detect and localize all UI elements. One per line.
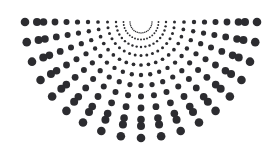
pattern-dot	[124, 27, 126, 29]
pattern-dot	[226, 92, 235, 101]
pattern-dot	[115, 21, 117, 23]
pattern-dot	[161, 33, 163, 35]
pattern-dot	[128, 52, 131, 55]
pattern-dot	[33, 18, 41, 26]
pattern-dot	[129, 34, 131, 36]
pattern-dot	[52, 19, 59, 26]
pattern-dot	[160, 79, 165, 84]
pattern-dot	[135, 31, 137, 32]
pattern-dot	[57, 85, 65, 93]
pattern-dot	[157, 70, 161, 74]
pattern-dot	[179, 54, 183, 58]
pattern-dot	[95, 93, 102, 100]
pattern-dot	[187, 60, 192, 65]
pattern-dot	[211, 107, 220, 116]
pattern-dot	[148, 44, 150, 46]
pattern-dot	[113, 89, 119, 95]
pattern-dot	[81, 67, 87, 73]
pattern-dot	[176, 42, 180, 46]
pattern-dot	[151, 34, 153, 36]
pattern-dot	[35, 36, 43, 44]
pattern-dot	[130, 72, 134, 76]
pattern-dot	[101, 84, 107, 90]
pattern-dot	[203, 56, 209, 62]
pattern-dot	[79, 118, 88, 127]
pattern-dot	[239, 36, 247, 44]
pattern-dot	[64, 19, 70, 25]
pattern-dot	[73, 56, 79, 62]
pattern-dot	[124, 40, 126, 42]
pattern-dot	[217, 85, 225, 93]
pattern-dot	[121, 37, 123, 39]
pattern-dot	[133, 30, 135, 32]
pattern-dot	[156, 50, 159, 53]
pattern-dot	[169, 37, 172, 40]
pattern-dot	[101, 116, 109, 124]
pattern-dot	[98, 54, 102, 58]
pattern-dot	[22, 38, 31, 47]
pattern-dot	[155, 120, 163, 128]
pattern-dot	[211, 32, 217, 38]
pattern-dot	[136, 32, 138, 34]
pattern-dot	[125, 30, 127, 32]
pattern-dot	[235, 54, 243, 62]
pattern-dot	[227, 70, 235, 78]
pattern-dot	[224, 19, 231, 26]
pattern-dot	[167, 99, 174, 106]
pattern-dot	[138, 32, 140, 34]
pattern-dot	[146, 37, 148, 39]
pattern-dot	[198, 41, 203, 46]
pattern-dot	[97, 127, 106, 136]
pattern-dot	[110, 37, 113, 40]
pattern-dot	[189, 38, 193, 42]
pattern-dot	[79, 41, 84, 46]
pattern-dot	[151, 92, 157, 98]
pattern-dot	[83, 51, 88, 56]
pattern-dot	[124, 61, 128, 65]
pattern-dot	[144, 32, 146, 34]
pattern-dot	[172, 48, 176, 52]
pattern-dot	[108, 99, 115, 106]
pattern-dot	[47, 70, 55, 78]
pattern-dot	[131, 27, 133, 29]
pattern-dot	[137, 122, 145, 130]
pattern-dot	[163, 89, 169, 95]
pattern-dot	[127, 32, 129, 34]
pattern-dot	[53, 34, 60, 41]
pattern-dot	[157, 24, 159, 26]
pattern-dot	[185, 46, 189, 50]
pattern-dot	[165, 21, 167, 23]
pattern-dot	[151, 52, 154, 55]
pattern-dot	[121, 70, 125, 74]
pattern-dot	[208, 44, 214, 50]
figure-canvas	[0, 0, 278, 153]
pattern-dot	[127, 82, 132, 87]
pattern-dot	[149, 36, 151, 38]
pattern-dot	[201, 30, 206, 35]
pattern-dot	[180, 35, 184, 39]
pattern-dot	[130, 25, 132, 27]
pattern-dot	[140, 39, 142, 41]
pattern-dot	[182, 28, 186, 32]
pattern-dot	[87, 29, 91, 33]
pattern-dot	[167, 53, 171, 57]
pattern-dot	[151, 23, 153, 25]
pattern-dot	[63, 62, 70, 69]
pattern-dot	[192, 20, 196, 24]
pattern-dot	[140, 46, 142, 48]
pattern-dot	[108, 32, 111, 35]
pattern-dot	[189, 108, 197, 116]
pattern-dot	[253, 18, 262, 27]
pattern-dot	[70, 98, 78, 106]
pattern-dot	[90, 60, 95, 65]
pattern-dot	[151, 21, 153, 23]
pattern-dot	[237, 76, 246, 85]
pattern-dot	[193, 51, 198, 56]
pattern-dot	[123, 103, 130, 110]
pattern-dot	[170, 74, 175, 79]
pattern-dot	[179, 68, 184, 73]
pattern-dot	[165, 66, 169, 70]
pattern-dot	[39, 54, 47, 62]
pattern-dot	[117, 79, 122, 84]
pattern-dot	[173, 116, 181, 124]
